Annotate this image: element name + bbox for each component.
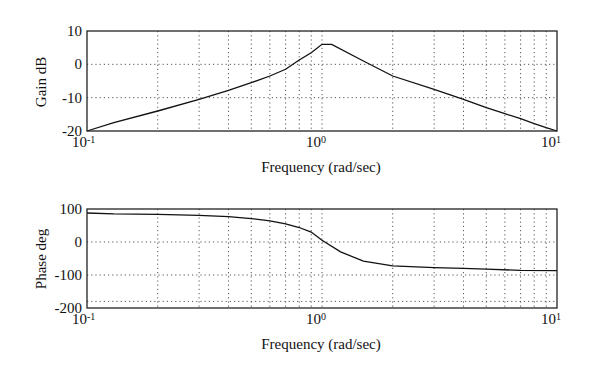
phase-xtick-1: 100	[306, 311, 326, 327]
gain-xtick-10: 101	[541, 134, 561, 150]
phase-ytick-0: 0	[75, 234, 83, 250]
gain-xtick-0.1: 10-1	[72, 134, 95, 150]
gain-ytick-0: 0	[75, 56, 83, 72]
phase-ytick-100: 100	[60, 201, 83, 217]
phase-ylabel: Phase deg	[33, 228, 49, 289]
gain-ytick-minus10: -10	[62, 90, 82, 106]
gain-grid	[87, 31, 557, 131]
gain-ytick-10: 10	[67, 23, 82, 39]
phase-grid	[87, 209, 557, 308]
phase-xtick-0.1: 10-1	[72, 311, 95, 327]
phase-xlabel: Frequency (rad/sec)	[261, 336, 381, 353]
phase-xtick-10: 101	[541, 311, 561, 327]
bode-plot: 10 0 -10 -20 10-1 100 101 Frequency (rad…	[0, 0, 590, 369]
gain-xtick-1: 100	[306, 134, 326, 150]
gain-xlabel: Frequency (rad/sec)	[261, 159, 381, 176]
gain-plot: 10 0 -10 -20 10-1 100 101 Frequency (rad…	[33, 23, 561, 176]
phase-ytick-minus100: -100	[55, 267, 83, 283]
phase-plot: 100 0 -100 -200 10-1 100 101 Frequency (…	[33, 201, 561, 353]
gain-ylabel: Gain dB	[33, 57, 49, 107]
